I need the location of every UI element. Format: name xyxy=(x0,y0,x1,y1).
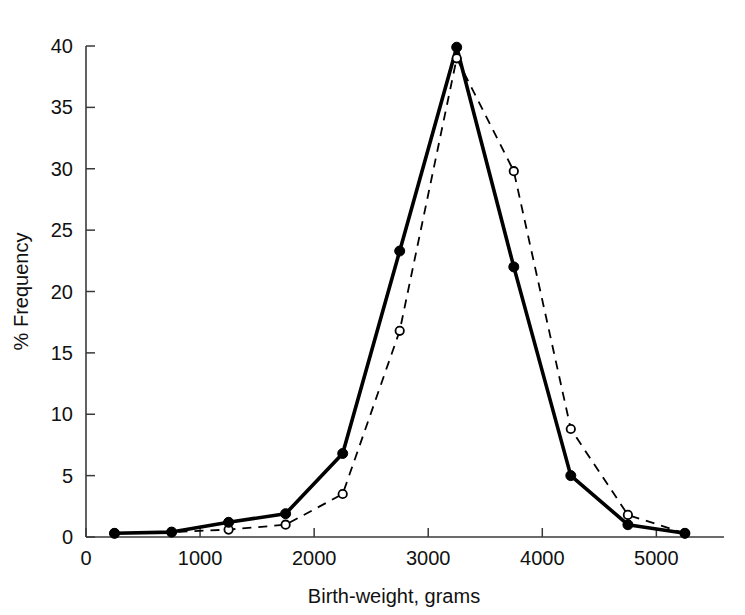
y-tick-label: 20 xyxy=(51,281,73,303)
y-tick-label: 25 xyxy=(51,219,73,241)
data-point-marker xyxy=(395,246,405,256)
birth-weight-frequency-chart: 0510152025303540 010002000300040005000 B… xyxy=(0,0,745,615)
data-point-marker xyxy=(567,425,575,433)
data-point-marker xyxy=(452,42,462,52)
data-point-marker xyxy=(509,262,519,272)
y-tick-label: 30 xyxy=(51,158,73,180)
y-tick-label: 5 xyxy=(62,465,73,487)
x-tick-label: 1000 xyxy=(178,547,223,569)
series-line-dashed-open-circle-series xyxy=(115,58,685,533)
data-point-marker xyxy=(566,471,576,481)
data-point-marker xyxy=(224,517,234,527)
data-point-marker xyxy=(510,167,518,175)
data-series xyxy=(110,42,690,538)
y-tick-label: 35 xyxy=(51,96,73,118)
data-point-marker xyxy=(339,490,347,498)
x-tick-label: 5000 xyxy=(634,547,679,569)
y-axis-title: % Frequency xyxy=(10,233,32,351)
y-tick-label: 15 xyxy=(51,342,73,364)
y-tick-label: 0 xyxy=(62,526,73,548)
data-point-marker xyxy=(680,528,690,538)
data-point-marker xyxy=(453,54,461,62)
x-tick-label: 3000 xyxy=(406,547,451,569)
x-tick-label: 4000 xyxy=(520,547,565,569)
x-tick-label: 2000 xyxy=(292,547,337,569)
axes xyxy=(86,46,724,537)
data-point-marker xyxy=(396,327,404,335)
x-axis-title: Birth-weight, grams xyxy=(308,585,480,607)
data-point-marker xyxy=(281,509,291,519)
y-tick-label: 40 xyxy=(51,35,73,57)
chart-container: 0510152025303540 010002000300040005000 B… xyxy=(0,0,745,615)
y-axis-ticks: 0510152025303540 xyxy=(51,35,95,548)
data-point-marker xyxy=(624,511,632,519)
y-tick-label: 10 xyxy=(51,403,73,425)
data-point-marker xyxy=(110,528,120,538)
x-tick-label: 0 xyxy=(80,547,91,569)
data-point-marker xyxy=(623,520,633,530)
data-point-marker xyxy=(167,527,177,537)
data-point-marker xyxy=(338,449,348,459)
series-line-solid-filled-circle-series xyxy=(115,47,685,533)
data-point-marker xyxy=(281,521,289,529)
